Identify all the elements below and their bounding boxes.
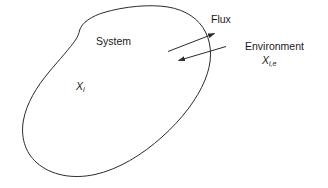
system-variable-subscript: i — [83, 85, 85, 94]
diagram-canvas: System Xi Flux Environment Xi,e — [0, 0, 328, 188]
flux-label: Flux — [211, 14, 231, 25]
diagram-graphics — [0, 0, 328, 188]
environment-label: Environment — [245, 41, 304, 52]
inward-flux-arrow — [179, 47, 227, 61]
outward-flux-arrow — [168, 34, 215, 52]
system-label: System — [96, 36, 131, 47]
system-variable-symbol: X — [76, 80, 83, 92]
system-boundary — [23, 6, 211, 177]
environment-variable-subscript: i,e — [269, 59, 277, 68]
system-variable-label: Xi — [76, 81, 85, 92]
environment-variable-symbol: X — [262, 54, 269, 66]
environment-variable-label: Xi,e — [262, 55, 277, 66]
